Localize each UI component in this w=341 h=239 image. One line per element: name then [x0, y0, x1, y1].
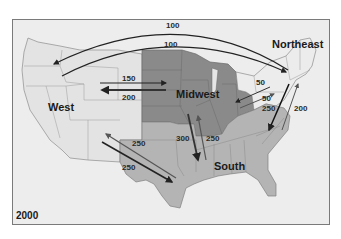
- flow-label-south-northeast: 200: [294, 104, 308, 113]
- region-label-west: West: [48, 101, 74, 113]
- region-label-midwest: Midwest: [176, 88, 220, 100]
- flow-label-south-west: 250: [132, 139, 146, 148]
- us-migration-map: West Midwest Northeast South 100 100 150…: [0, 0, 341, 239]
- flow-label-south-midwest: 250: [206, 134, 220, 143]
- region-label-northeast: Northeast: [272, 38, 324, 50]
- flow-label-northeast-west: 100: [166, 21, 180, 30]
- flow-label-midwest-south: 300: [176, 134, 190, 143]
- flow-label-midwest-northeast: 50: [262, 94, 271, 103]
- flow-label-west-northeast: 100: [164, 40, 178, 49]
- flow-label-midwest-west: 200: [122, 93, 136, 102]
- region-label-south: South: [214, 160, 245, 172]
- flow-label-west-south: 250: [122, 163, 136, 172]
- flow-label-northeast-midwest: 50: [256, 78, 265, 87]
- flow-label-west-midwest: 150: [122, 74, 136, 83]
- year-label: 2000: [16, 210, 38, 221]
- flow-label-northeast-south: 250: [262, 104, 276, 113]
